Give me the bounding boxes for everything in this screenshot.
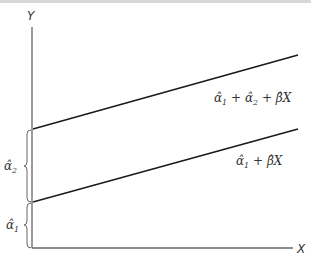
svg-text:α̂1 + β̂X: α̂1 + β̂X [236,154,283,170]
regression-diagram: Y X α̂1 + α̂2 + β̂X α̂1 + β̂X α̂2 α̂1 [0,0,311,267]
lower-line-label: α̂1 + β̂X [236,154,283,170]
alpha1-brace [24,203,31,248]
alpha2-brace [24,130,31,202]
upper-line-label: α̂1 + α̂2 + β̂X [214,91,292,107]
x-axis-label: X [296,242,306,256]
alpha2-brace-label: α̂2 [4,159,17,175]
alpha1-brace-label: α̂1 [6,218,19,234]
y-axis-label: Y [27,9,36,23]
svg-text:α̂1 + α̂2 + β̂X: α̂1 + α̂2 + β̂X [214,91,292,107]
